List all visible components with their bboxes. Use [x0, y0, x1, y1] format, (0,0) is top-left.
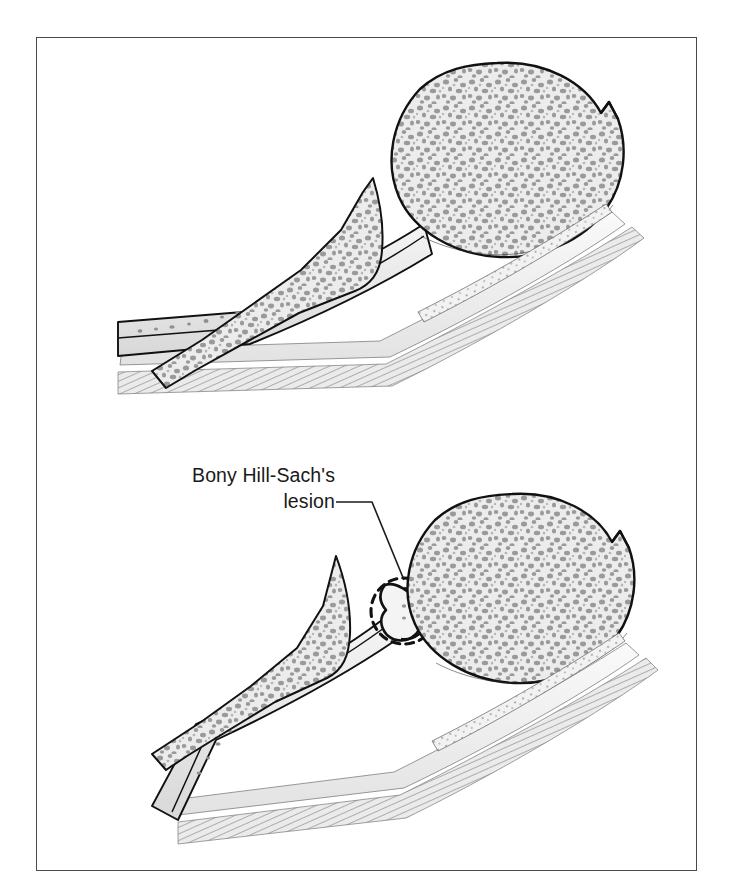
- figure-frame-border: [36, 37, 697, 871]
- lesion-annotation-label: Bony Hill-Sach's lesion: [150, 462, 335, 514]
- caption-fragment: [712, 800, 739, 862]
- figure-page: Bony Hill-Sach's lesion: [0, 0, 739, 896]
